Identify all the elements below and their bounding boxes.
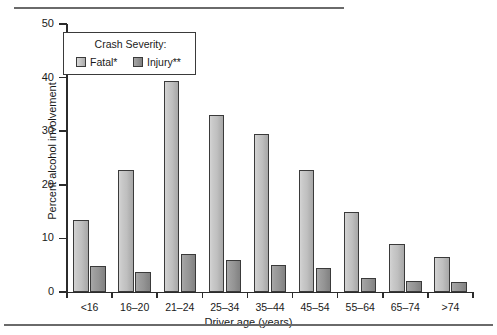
bar-injury [406, 281, 422, 292]
y-axis-title: Percent alcohol involvement [46, 26, 58, 276]
bar-fatal [299, 170, 315, 292]
x-axis-tick [382, 292, 384, 298]
bar-injury [90, 266, 106, 292]
bar-fatal [73, 220, 89, 292]
x-axis-title: Driver age (years) [0, 316, 497, 328]
y-axis-tick [59, 184, 67, 186]
top-horizontal-rule [14, 7, 344, 9]
x-axis-tick [337, 292, 339, 298]
y-axis-tick-label: 0 [0, 286, 54, 297]
bar-injury [451, 282, 467, 292]
bottom-horizontal-rule [4, 324, 493, 326]
legend-swatch-injury-icon [133, 57, 143, 67]
x-axis-tick-label: >74 [410, 301, 490, 313]
y-axis-tick [59, 238, 67, 240]
y-axis-tick [59, 77, 67, 79]
legend-label-fatal: Fatal* [90, 56, 117, 68]
x-axis-tick [156, 292, 158, 298]
x-axis-tick [472, 292, 474, 298]
bar-fatal [344, 212, 360, 292]
legend-title: Crash Severity: [64, 38, 197, 50]
x-axis-tick [427, 292, 429, 298]
bar-injury [361, 278, 377, 292]
x-axis-tick [247, 292, 249, 298]
legend-entry-injury: Injury** [133, 56, 181, 68]
bar-fatal [118, 170, 134, 292]
bar-fatal [434, 257, 450, 292]
x-axis-tick [202, 292, 204, 298]
bar-fatal [389, 244, 405, 292]
y-axis-tick [59, 130, 67, 132]
bar-fatal [164, 81, 180, 292]
legend-swatch-fatal-icon [76, 57, 86, 67]
bar-injury [316, 268, 332, 292]
x-axis-tick [111, 292, 113, 298]
legend-entry-fatal: Fatal* [76, 56, 117, 68]
legend: Crash Severity: Fatal* Injury** [63, 32, 196, 75]
y-axis-tick [59, 23, 67, 25]
bar-injury [181, 254, 197, 292]
bar-fatal [209, 115, 225, 292]
bar-injury [135, 272, 151, 292]
x-axis-tick [66, 292, 68, 298]
bar-fatal [254, 134, 270, 292]
bar-injury [226, 260, 242, 292]
legend-label-injury: Injury** [147, 56, 181, 68]
x-axis-tick [292, 292, 294, 298]
bar-injury [271, 265, 287, 292]
bar-chart-figure: 01020304050 <1616–2021–2425–3435–4445–54… [0, 14, 497, 320]
